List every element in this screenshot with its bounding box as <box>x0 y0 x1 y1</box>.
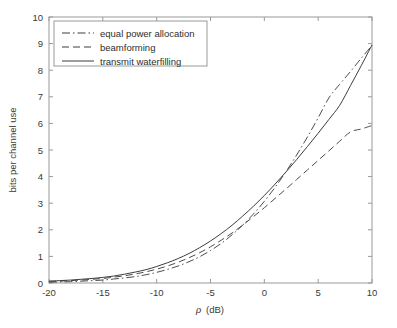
y-tick-label: 1 <box>38 251 43 262</box>
y-tick-label: 0 <box>38 278 43 289</box>
y-axis-label: bits per channel use <box>7 107 18 192</box>
y-tick-label: 6 <box>38 118 43 129</box>
legend: equal power allocationbeamformingtransmi… <box>54 21 207 67</box>
legend-label: beamforming <box>100 42 155 53</box>
x-tick-label: -5 <box>206 287 214 298</box>
x-axis-label: ρ (dB) <box>195 303 224 315</box>
chart-svg: -20-15-10-50510 012345678910 bits per ch… <box>0 0 397 328</box>
x-tick-label: 0 <box>262 287 267 298</box>
y-tick-label: 9 <box>38 38 43 49</box>
x-tick-label: 10 <box>367 287 378 298</box>
y-tick-label: 10 <box>32 12 43 23</box>
legend-label: transmit waterfilling <box>100 56 181 67</box>
y-tick-label: 2 <box>38 224 43 235</box>
y-tick-label: 3 <box>38 198 43 209</box>
y-tick-label: 7 <box>38 91 43 102</box>
x-tick-label: -15 <box>96 287 110 298</box>
y-tick-label: 8 <box>38 65 43 76</box>
y-tick-label: 4 <box>38 171 43 182</box>
y-tick-label: 5 <box>38 145 43 156</box>
x-tick-label: -10 <box>150 287 164 298</box>
chart-figure: -20-15-10-50510 012345678910 bits per ch… <box>0 0 397 328</box>
legend-label: equal power allocation <box>100 28 195 39</box>
x-tick-label: -20 <box>42 287 56 298</box>
x-tick-label: 5 <box>316 287 321 298</box>
